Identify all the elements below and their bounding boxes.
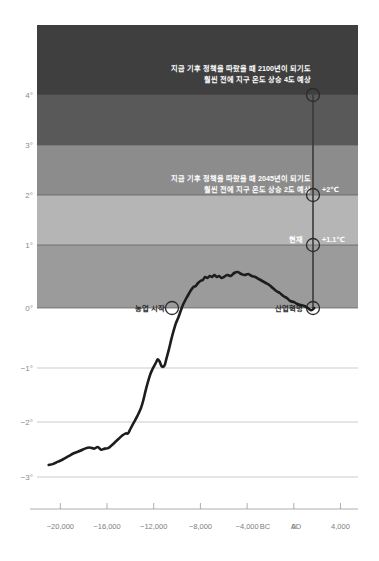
x-axis-tick-label-2: −12,000 bbox=[140, 522, 167, 531]
ytick-2: 2° bbox=[25, 191, 33, 200]
x-axis-tick-label-3: −8,000 bbox=[189, 522, 212, 531]
x-axis-tick-label-1: −16,000 bbox=[93, 522, 120, 531]
ytick-0: 0° bbox=[25, 304, 33, 313]
climate-temperature-chart: 4° 3° 2° 1° 0° −1° −2° −3° 지금 기후 정책을 따랐을… bbox=[0, 0, 379, 561]
x-axis-era-bc: BC bbox=[260, 522, 271, 531]
ytick-3: 3° bbox=[25, 141, 33, 150]
ytick-4: 4° bbox=[25, 91, 33, 100]
x-axis-tick-labels: −20,000−16,000−12,000−8,000−4,00004,000 bbox=[47, 522, 350, 531]
band-3-4 bbox=[37, 95, 358, 145]
present-day-value-label: +1.1℃ bbox=[322, 235, 345, 244]
x-axis-ticks bbox=[60, 503, 340, 509]
lower-gridlines bbox=[37, 368, 358, 477]
band-1-2 bbox=[37, 195, 358, 245]
agriculture-start-label: 농업 시작 bbox=[135, 304, 165, 313]
y-axis-lower-labels: −1° −2° −3° bbox=[21, 364, 33, 482]
annotation-4-degrees-line-2: 훨씬 전에 지구 온도 상승 4도 예상 bbox=[204, 75, 311, 84]
x-axis-tick-label-4: −4,000 bbox=[236, 522, 259, 531]
band-4-plus bbox=[37, 25, 358, 95]
ytick-1: 1° bbox=[25, 241, 33, 250]
ytick-minus-2: −2° bbox=[21, 418, 33, 427]
x-axis-era-ad: AD bbox=[291, 522, 302, 531]
x-axis-tick-label-6: 4,000 bbox=[331, 522, 350, 531]
ytick-minus-1: −1° bbox=[21, 364, 33, 373]
y-axis-upper-labels: 4° 3° 2° 1° 0° bbox=[25, 91, 33, 313]
annotation-2-degrees-line-2: 훨씬 전에 지구 온도 상승 2도 예상 bbox=[204, 185, 311, 194]
projection-2-degrees-label: +2℃ bbox=[322, 185, 339, 194]
x-axis-tick-label-0: −20,000 bbox=[47, 522, 74, 531]
ytick-minus-3: −3° bbox=[21, 473, 33, 482]
chart-canvas: 4° 3° 2° 1° 0° −1° −2° −3° 지금 기후 정책을 따랐을… bbox=[0, 0, 379, 561]
annotation-4-degrees-line-1: 지금 기후 정책을 따랐을 때 2100년이 되기도 bbox=[171, 64, 311, 73]
present-day-label: 현재 bbox=[289, 235, 303, 244]
annotation-2-degrees-line-1: 지금 기후 정책을 따랐을 때 2045년이 되기도 bbox=[171, 174, 311, 183]
band-0-1 bbox=[37, 245, 358, 308]
